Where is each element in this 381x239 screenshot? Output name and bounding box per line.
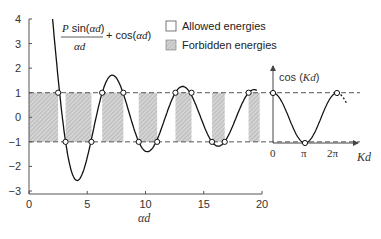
band-edge-marker [100, 90, 105, 95]
legend-swatch-allowed [166, 21, 176, 31]
svg-text:+ cos(αd): + cos(αd) [106, 29, 151, 41]
band-edge-marker [155, 139, 160, 144]
band-edge-marker [136, 139, 141, 144]
band-edge-marker [89, 139, 94, 144]
legend-label-allowed: Allowed energies [182, 20, 266, 32]
y-tick-label: 2 [15, 62, 21, 74]
y-tick-label: −3 [8, 185, 21, 197]
band-edge-marker [121, 90, 126, 95]
inset-y-label: cos (Kd) [279, 71, 319, 83]
y-tick-label: −2 [8, 160, 21, 172]
inset-marker-0 [270, 90, 275, 95]
inset-tick-0: 0 [270, 147, 276, 159]
cos-kd-inset: cos (Kd) 0 π 2π Kd [270, 66, 372, 164]
inset-marker-2pi [334, 90, 339, 95]
band-edge-marker [222, 139, 227, 144]
formula-plus-cos: + cos( [106, 29, 137, 41]
band-edge-marker [56, 90, 61, 95]
y-tick-label: −1 [8, 136, 21, 148]
formula-cos-close: ) [148, 29, 152, 41]
x-axis-title: αd [138, 211, 151, 225]
svg-text:P sin(αd): P sin(αd) [61, 22, 104, 34]
y-tick-label: 4 [15, 13, 21, 25]
y-tick-label: 1 [15, 87, 21, 99]
formula-cos-arg: αd [136, 29, 148, 41]
inset-tick-2pi: 2π [327, 147, 339, 159]
band-edge-marker [189, 90, 194, 95]
y-tick-label: 0 [15, 111, 21, 123]
y-tick-label: 3 [15, 38, 21, 50]
band-edge-marker [173, 90, 178, 95]
forbidden-band [212, 93, 225, 142]
forbidden-band [249, 93, 260, 142]
formula-close: ) [101, 22, 105, 34]
formula-denominator: αd [74, 40, 86, 52]
formula-arg: αd [90, 22, 102, 34]
forbidden-band [175, 93, 191, 142]
x-tick-label: 10 [139, 198, 151, 210]
legend-label-forbidden: Forbidden energies [182, 39, 277, 51]
chart: −3−2−10123405101520 P sin(αd) αd + cos(α… [0, 0, 381, 239]
formula-sin: sin( [69, 22, 90, 34]
x-tick-label: 20 [256, 198, 268, 210]
x-tick-label: 15 [198, 198, 210, 210]
band-edge-marker [209, 139, 214, 144]
legend: Allowed energies Forbidden energies [166, 20, 277, 51]
x-tick-label: 5 [84, 198, 90, 210]
band-edge-marker [63, 139, 68, 144]
forbidden-band [66, 93, 92, 142]
formula-label: P sin(αd) αd + cos(αd) [61, 22, 151, 52]
forbidden-band [29, 93, 58, 142]
inset-marker-pi [302, 140, 307, 145]
x-tick-label: 0 [26, 198, 32, 210]
band-edge-marker [246, 90, 251, 95]
inset-tick-pi: π [301, 147, 307, 159]
forbidden-band [139, 93, 157, 142]
legend-swatch-forbidden [166, 40, 176, 50]
inset-cos-curve [273, 93, 336, 143]
inset-x-label: Kd [356, 150, 372, 164]
forbidden-band [102, 93, 123, 142]
energy-bands [29, 93, 260, 142]
